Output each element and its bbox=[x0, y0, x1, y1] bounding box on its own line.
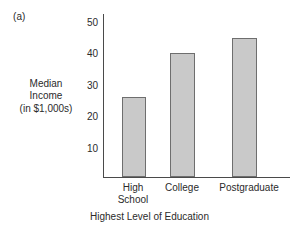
x-tick-label-postgraduate: Postgraduate bbox=[208, 182, 290, 194]
bar-college bbox=[170, 53, 195, 177]
figure-panel: (a) Median Income (in $1,000s) 50 40 30 … bbox=[0, 0, 299, 235]
panel-label: (a) bbox=[13, 11, 26, 22]
x-tick-label-line-2: School bbox=[104, 194, 162, 206]
y-tick-label: 50 bbox=[72, 18, 98, 28]
x-axis-title: Highest Level of Education bbox=[0, 211, 299, 222]
y-tick-label: 10 bbox=[72, 144, 98, 154]
y-axis-line bbox=[103, 14, 104, 178]
y-tick-label: 40 bbox=[72, 49, 98, 59]
x-tick-label-line-1: Postgraduate bbox=[208, 182, 290, 194]
y-tick-label: 20 bbox=[72, 112, 98, 122]
y-axis-tick-labels: 50 40 30 20 10 bbox=[72, 14, 98, 178]
x-tick-label-line-1: College bbox=[153, 182, 211, 194]
plot-area bbox=[103, 14, 290, 178]
y-tick-label: 30 bbox=[72, 81, 98, 91]
bar-high-school bbox=[122, 97, 146, 177]
x-axis-line bbox=[103, 177, 290, 178]
bar-postgraduate bbox=[232, 38, 257, 177]
x-tick-label-college: College bbox=[153, 182, 211, 194]
